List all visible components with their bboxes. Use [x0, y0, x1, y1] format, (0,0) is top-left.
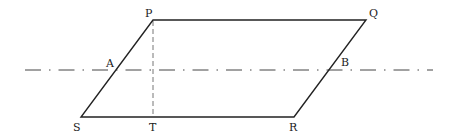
label-B: B [341, 56, 349, 69]
label-T: T [149, 121, 157, 134]
label-Q: Q [369, 7, 378, 20]
label-A: A [105, 57, 115, 70]
parallelogram-diagram: P Q R S T A B [0, 0, 451, 140]
parallelogram-PQRS [81, 20, 366, 117]
label-P: P [145, 7, 153, 20]
label-S: S [73, 121, 81, 134]
label-R: R [289, 121, 298, 134]
